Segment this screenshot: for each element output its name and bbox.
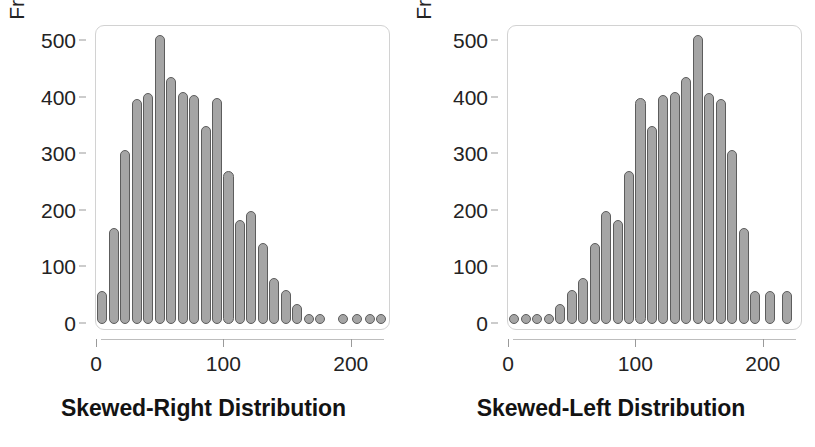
x-axis-line bbox=[513, 339, 796, 340]
histogram-bar bbox=[658, 95, 668, 324]
histogram-bar bbox=[352, 314, 362, 324]
histogram-bar bbox=[166, 77, 176, 324]
y-tick-label: 200 bbox=[438, 199, 488, 220]
y-tick-label: 100 bbox=[438, 256, 488, 277]
y-axis-label: Frequency bbox=[411, 0, 437, 86]
histogram-bar bbox=[635, 98, 645, 324]
x-tick-label: 200 bbox=[745, 353, 780, 374]
histogram-bar bbox=[97, 291, 107, 324]
histogram-bar bbox=[647, 126, 657, 324]
histogram-bar bbox=[567, 290, 577, 324]
histogram-bar bbox=[365, 314, 375, 324]
y-tick-label: 500 bbox=[438, 30, 488, 51]
histogram-bar bbox=[765, 291, 775, 324]
histogram-bar bbox=[509, 314, 519, 324]
histogram-bar bbox=[693, 35, 703, 324]
x-tick-mark bbox=[96, 339, 97, 347]
y-tick-mark bbox=[79, 323, 86, 324]
histogram-bar bbox=[613, 220, 623, 324]
x-tick-label: 100 bbox=[206, 353, 241, 374]
histogram-bar bbox=[727, 150, 737, 324]
histogram-bar bbox=[223, 171, 233, 324]
x-tick-label: 0 bbox=[90, 353, 102, 374]
histogram-bar bbox=[681, 77, 691, 324]
histogram-bar bbox=[624, 171, 634, 324]
panel-caption: Skewed-Left Distribution bbox=[407, 395, 815, 422]
y-tick-mark bbox=[491, 209, 498, 210]
histogram-bar bbox=[155, 35, 165, 324]
x-tick-label: 200 bbox=[333, 353, 368, 374]
histogram-bar bbox=[132, 99, 142, 324]
y-tick-mark bbox=[491, 266, 498, 267]
y-axis-tick-labels: 0100200300400500 bbox=[450, 25, 500, 325]
histogram-bar bbox=[532, 314, 542, 324]
histogram-bar bbox=[670, 92, 680, 324]
histogram-bar bbox=[292, 304, 302, 324]
histogram-bar bbox=[109, 228, 119, 324]
figure-two-histograms: Frequency 0100200300400500 0100200 Skewe… bbox=[0, 0, 815, 447]
y-tick-mark bbox=[79, 96, 86, 97]
histogram-bar bbox=[716, 99, 726, 324]
histogram-bar bbox=[246, 211, 256, 324]
y-tick-mark bbox=[491, 40, 498, 41]
histogram-bar bbox=[544, 314, 554, 324]
y-tick-label: 200 bbox=[26, 199, 76, 220]
x-tick-mark bbox=[635, 339, 636, 347]
histogram-bar bbox=[376, 314, 386, 324]
y-tick-mark bbox=[79, 153, 86, 154]
y-tick-mark bbox=[79, 40, 86, 41]
panel-skewed-right: Frequency 0100200300400500 0100200 Skewe… bbox=[0, 0, 407, 447]
x-tick-mark bbox=[351, 339, 352, 347]
histogram-bar bbox=[189, 95, 199, 324]
histogram-bar bbox=[281, 290, 291, 324]
histogram-bar bbox=[601, 211, 611, 324]
plot-area bbox=[95, 25, 390, 330]
histogram-bar bbox=[201, 126, 211, 324]
histogram-bar bbox=[212, 98, 222, 324]
x-tick-mark bbox=[508, 339, 509, 347]
histogram-bars bbox=[96, 26, 389, 329]
histogram-bar bbox=[120, 150, 130, 324]
histogram-bar bbox=[750, 291, 760, 324]
histogram-bar bbox=[590, 243, 600, 324]
y-tick-label: 400 bbox=[26, 86, 76, 107]
y-tick-label: 400 bbox=[438, 86, 488, 107]
histogram-bar bbox=[338, 314, 348, 324]
x-tick-mark bbox=[763, 339, 764, 347]
y-tick-label: 0 bbox=[438, 313, 488, 334]
histogram-bar bbox=[269, 278, 279, 324]
histogram-bar bbox=[555, 304, 565, 324]
x-tick-label: 100 bbox=[618, 353, 653, 374]
histogram-bar bbox=[258, 243, 268, 324]
histogram-bar bbox=[315, 314, 325, 324]
y-tick-label: 300 bbox=[26, 143, 76, 164]
plot-area bbox=[507, 25, 802, 330]
histogram-bar bbox=[782, 291, 792, 324]
histogram-bar bbox=[578, 278, 588, 324]
y-tick-label: 0 bbox=[26, 313, 76, 334]
panel-caption: Skewed-Right Distribution bbox=[0, 395, 407, 422]
histogram-bar bbox=[235, 220, 245, 324]
histogram-bars bbox=[508, 26, 801, 329]
y-tick-mark bbox=[79, 266, 86, 267]
y-tick-label: 500 bbox=[26, 30, 76, 51]
y-tick-mark bbox=[491, 96, 498, 97]
histogram-bar bbox=[521, 314, 531, 324]
y-tick-mark bbox=[79, 209, 86, 210]
histogram-bar bbox=[704, 93, 714, 324]
histogram-bar bbox=[143, 93, 153, 324]
y-axis-tick-labels: 0100200300400500 bbox=[38, 25, 88, 325]
x-tick-mark bbox=[223, 339, 224, 347]
histogram-bar bbox=[304, 314, 314, 324]
y-tick-mark bbox=[491, 323, 498, 324]
x-axis-line bbox=[101, 339, 384, 340]
x-tick-label: 0 bbox=[502, 353, 514, 374]
histogram-bar bbox=[739, 228, 749, 324]
y-tick-label: 100 bbox=[26, 256, 76, 277]
histogram-bar bbox=[178, 92, 188, 324]
y-tick-label: 300 bbox=[438, 143, 488, 164]
panel-skewed-left: Frequency 0100200300400500 0100200 Skewe… bbox=[407, 0, 815, 447]
y-tick-mark bbox=[491, 153, 498, 154]
